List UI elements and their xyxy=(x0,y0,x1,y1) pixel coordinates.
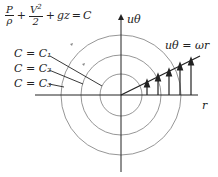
flow-direction-arrow-icon xyxy=(70,43,73,46)
u-theta-axis-label: uθ xyxy=(127,14,141,25)
bernoulli-equation: Pρ + V22 + gz = C xyxy=(4,4,91,27)
label-c2: C = C₂ xyxy=(14,63,51,74)
density-symbol: ρ xyxy=(6,16,12,27)
label-leaders xyxy=(49,56,102,87)
flow-direction-arrow-icon xyxy=(82,63,85,66)
label-c3: C = C₃ xyxy=(14,78,51,89)
velocity-law-label: uθ = ωr xyxy=(165,40,209,51)
label-c1: C = C₁ xyxy=(14,48,51,59)
constant-c: C xyxy=(83,9,91,22)
gz-term: gz xyxy=(57,9,70,22)
r-axis-label: r xyxy=(202,100,207,111)
